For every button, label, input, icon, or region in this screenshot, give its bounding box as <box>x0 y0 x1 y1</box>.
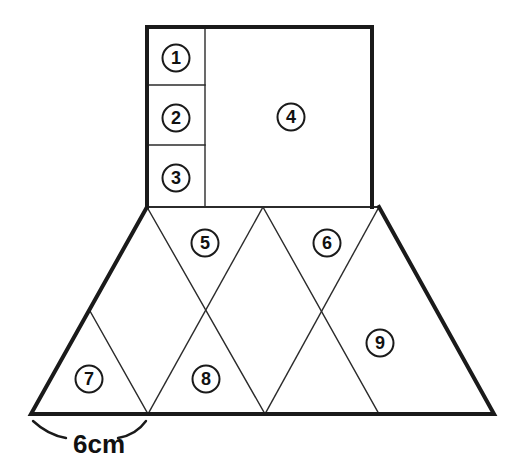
face-number-5: 5 <box>200 233 210 253</box>
face-number-8: 8 <box>201 369 211 389</box>
face-label-6: 6 <box>314 230 341 257</box>
geometry-figure: 1 2 3 4 5 6 <box>0 0 524 464</box>
face-label-7: 7 <box>76 366 103 393</box>
face-fills <box>31 27 494 414</box>
face-label-9: 9 <box>367 330 394 357</box>
face-label-2: 2 <box>163 105 190 132</box>
face-label-4: 4 <box>278 104 305 131</box>
face-label-5: 5 <box>192 230 219 257</box>
brace-left-arc <box>33 421 66 438</box>
face-label-1: 1 <box>163 45 190 72</box>
face-number-1: 1 <box>171 48 181 68</box>
face-label-8: 8 <box>193 366 220 393</box>
face-number-2: 2 <box>171 108 181 128</box>
face-number-7: 7 <box>84 369 94 389</box>
figure-canvas: 1 2 3 4 5 6 <box>0 0 524 464</box>
face-number-9: 9 <box>375 333 385 353</box>
face-number-6: 6 <box>322 233 332 253</box>
dimension-label: 6cm <box>73 429 125 459</box>
face-number-4: 4 <box>286 107 296 127</box>
face-label-3: 3 <box>163 165 190 192</box>
face-number-3: 3 <box>171 168 181 188</box>
